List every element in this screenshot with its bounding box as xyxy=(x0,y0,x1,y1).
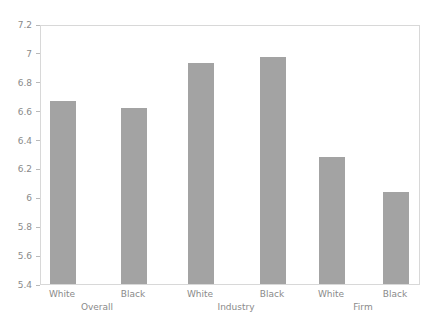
y-axis-tick-label: 6 xyxy=(26,192,36,204)
y-axis-tick-label: 7.2 xyxy=(18,19,36,31)
y-axis-tick: 7.2 xyxy=(18,19,40,31)
y-axis-tick: 5.8 xyxy=(18,221,40,233)
bar xyxy=(260,57,286,284)
x-axis-tick-label: Black xyxy=(355,289,435,299)
bar xyxy=(383,192,409,284)
y-axis-tick-label: 5.8 xyxy=(18,221,36,233)
y-axis-tick: 7 xyxy=(26,48,40,60)
y-axis-tick: 5.6 xyxy=(18,250,40,262)
bar xyxy=(188,63,214,284)
y-axis-tick: 6.6 xyxy=(18,106,40,118)
y-axis-tick: 6.8 xyxy=(18,77,40,89)
y-axis-tick-label: 5.6 xyxy=(18,250,36,262)
y-axis-tick: 6.4 xyxy=(18,135,40,147)
x-axis-tick-label: White xyxy=(160,289,240,299)
bar xyxy=(121,108,147,284)
y-axis-tick-label: 6.2 xyxy=(18,163,36,175)
x-axis-group-label: Firm xyxy=(303,302,423,312)
y-axis-tick-label: 6.8 xyxy=(18,77,36,89)
bar-chart: 5.45.65.866.26.46.66.877.2 WhiteBlackWhi… xyxy=(0,0,441,317)
bar xyxy=(50,101,76,284)
x-axis-group-label: Industry xyxy=(176,302,296,312)
y-axis-tick-label: 6.6 xyxy=(18,106,36,118)
plot-area xyxy=(40,25,420,285)
bar xyxy=(319,157,345,284)
y-axis-tick: 6.2 xyxy=(18,163,40,175)
x-axis-group-label: Overall xyxy=(37,302,157,312)
y-axis: 5.45.65.866.26.46.66.877.2 xyxy=(0,0,40,317)
y-axis-tick-label: 7 xyxy=(26,48,36,60)
y-axis-tick: 6 xyxy=(26,192,40,204)
y-axis-tick-label: 6.4 xyxy=(18,135,36,147)
x-axis-tick-label: White xyxy=(22,289,102,299)
